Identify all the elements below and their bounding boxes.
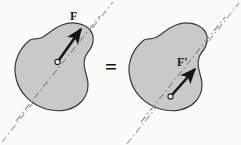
right-application-point bbox=[168, 94, 173, 99]
left-application-point bbox=[55, 59, 60, 64]
right-force-label: F' bbox=[177, 56, 188, 68]
left-force-label: F bbox=[70, 10, 77, 22]
figure-canvas bbox=[0, 0, 241, 145]
transmissibility-figure: F = F' bbox=[0, 0, 241, 145]
equals-sign: = bbox=[105, 57, 117, 78]
right-panel bbox=[127, 3, 239, 144]
left-panel bbox=[2, 2, 113, 142]
left-rigid-body bbox=[15, 23, 93, 111]
